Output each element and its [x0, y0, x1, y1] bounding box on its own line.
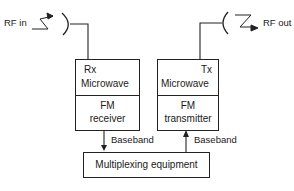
transmitter-block: Tx Microwave FM transmitter	[157, 59, 219, 131]
fm-transmitter-section: FM transmitter	[158, 96, 218, 130]
rx-microwave-label: Microwave	[81, 78, 129, 90]
tx-label: Tx	[201, 64, 212, 76]
multiplexing-block: Multiplexing equipment	[83, 152, 210, 178]
receiver-block: Rx Microwave FM receiver	[75, 59, 140, 131]
rx-baseband-label: Baseband	[111, 134, 154, 145]
fm-receiver-label-1: FM	[76, 100, 139, 112]
rf-out-wave-icon	[235, 15, 258, 31]
rx-feed-line	[70, 24, 88, 59]
rx-antenna-icon	[62, 13, 68, 35]
fm-transmitter-label-2: transmitter	[158, 113, 218, 125]
rf-in-label: RF in	[4, 17, 27, 28]
rx-baseband-arrowhead	[101, 145, 107, 151]
rx-microwave-section: Rx Microwave	[76, 60, 139, 96]
rx-label: Rx	[84, 64, 96, 76]
tx-antenna-icon	[223, 12, 228, 34]
multiplexing-label: Multiplexing equipment	[84, 159, 209, 171]
fm-receiver-section: FM receiver	[76, 96, 139, 130]
tx-microwave-label: Microwave	[161, 78, 209, 90]
rf-in-wave-icon	[32, 13, 53, 29]
tx-feed-line	[200, 23, 222, 59]
fm-transmitter-label-1: FM	[158, 100, 218, 112]
tx-baseband-arrowhead	[183, 130, 189, 137]
fm-receiver-label-2: receiver	[76, 113, 139, 125]
tx-baseband-label: Baseband	[194, 134, 237, 145]
tx-microwave-section: Tx Microwave	[158, 60, 218, 96]
rf-out-label: RF out	[263, 17, 292, 28]
